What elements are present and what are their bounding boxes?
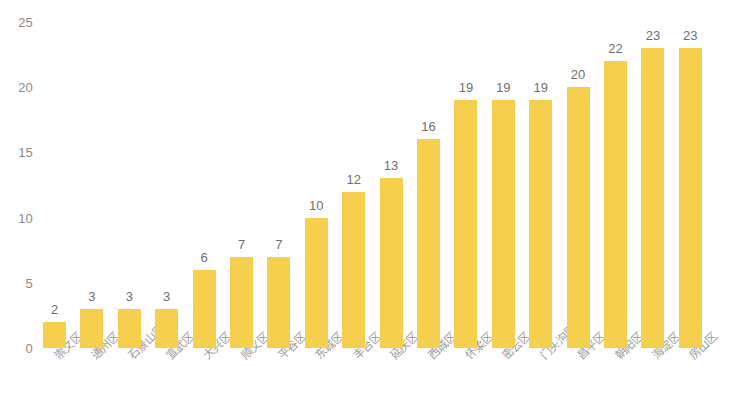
bar[interactable] <box>604 61 627 348</box>
bar-value-label: 3 <box>163 290 170 303</box>
bar-value-label: 12 <box>346 173 360 186</box>
bar-value-label: 7 <box>238 238 245 251</box>
bar-value-label: 6 <box>200 251 207 264</box>
bar[interactable] <box>567 87 590 348</box>
y-axis-tick-label: 10 <box>18 211 33 224</box>
bar-group: 20 <box>567 87 590 348</box>
bar-value-label: 19 <box>533 81 547 94</box>
bar-value-label: 16 <box>421 120 435 133</box>
bar-group: 22 <box>604 61 627 348</box>
bar[interactable] <box>230 257 253 348</box>
bar[interactable] <box>641 48 664 348</box>
bar[interactable] <box>454 100 477 348</box>
bar-value-label: 23 <box>683 29 697 42</box>
y-axis: 0510152025 <box>0 0 42 405</box>
bar-value-label: 20 <box>571 68 585 81</box>
bar[interactable] <box>492 100 515 348</box>
bar[interactable] <box>118 309 141 348</box>
bar[interactable] <box>155 309 178 348</box>
bar-value-label: 23 <box>646 29 660 42</box>
bar[interactable] <box>529 100 552 348</box>
bar-value-label: 7 <box>275 238 282 251</box>
bar-group: 23 <box>641 48 664 348</box>
bar[interactable] <box>679 48 702 348</box>
bar[interactable] <box>43 322 66 348</box>
bar-value-label: 19 <box>459 81 473 94</box>
bar-group: 19 <box>454 100 477 348</box>
bar-chart: 0510152025 崇文区通州区石景山区宣武区大兴区顺义区平谷区东城区丰台区延… <box>0 0 756 405</box>
bar-group: 2 <box>43 322 66 348</box>
bar-value-label: 3 <box>126 290 133 303</box>
y-axis-tick-label: 5 <box>26 276 33 289</box>
bar[interactable] <box>80 309 103 348</box>
bar[interactable] <box>305 218 328 348</box>
bar-group: 16 <box>417 139 440 348</box>
bar-group: 7 <box>230 257 253 348</box>
y-axis-tick-label: 15 <box>18 146 33 159</box>
bar-group: 19 <box>529 100 552 348</box>
y-axis-tick-label: 20 <box>18 81 33 94</box>
bar-group: 12 <box>342 192 365 348</box>
bar[interactable] <box>193 270 216 348</box>
bar[interactable] <box>342 192 365 348</box>
category-labels-layer: 崇文区通州区石景山区宣武区大兴区顺义区平谷区东城区丰台区延庆区西城区怀柔区密云区… <box>42 348 756 405</box>
bar-group: 13 <box>380 178 403 348</box>
bar-value-label: 13 <box>384 159 398 172</box>
bar[interactable] <box>267 257 290 348</box>
y-axis-tick-label: 0 <box>26 342 33 355</box>
bar-group: 7 <box>267 257 290 348</box>
bar-group: 3 <box>80 309 103 348</box>
bar-value-label: 10 <box>309 199 323 212</box>
bar-value-label: 3 <box>88 290 95 303</box>
bar-group: 3 <box>155 309 178 348</box>
bar-value-label: 19 <box>496 81 510 94</box>
bar-group: 19 <box>492 100 515 348</box>
plot-area: 崇文区通州区石景山区宣武区大兴区顺义区平谷区东城区丰台区延庆区西城区怀柔区密云区… <box>42 0 756 405</box>
bar-group: 3 <box>118 309 141 348</box>
y-axis-tick-label: 25 <box>18 16 33 29</box>
bar[interactable] <box>380 178 403 348</box>
bar-value-label: 22 <box>608 42 622 55</box>
bar[interactable] <box>417 139 440 348</box>
bar-group: 6 <box>193 270 216 348</box>
bar-value-label: 2 <box>51 303 58 316</box>
bar-group: 10 <box>305 218 328 348</box>
bar-group: 23 <box>679 48 702 348</box>
